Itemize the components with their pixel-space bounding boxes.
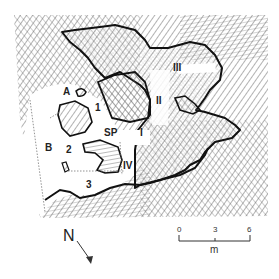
label-II: II	[156, 96, 162, 106]
north-label: N	[63, 228, 75, 244]
label-I: I	[140, 128, 143, 138]
scale-unit: m	[210, 244, 218, 255]
label-B: B	[45, 143, 52, 153]
label-3: 3	[86, 180, 92, 190]
scale-tick-0: 0	[177, 225, 181, 234]
passage-I	[120, 130, 150, 145]
scale-bar	[179, 235, 250, 241]
cave-plan-map	[0, 0, 279, 279]
north-arrow-head	[86, 256, 93, 264]
label-IV: IV	[123, 161, 132, 171]
scale-tick-3: 3	[213, 225, 217, 234]
label-1: 1	[95, 103, 101, 113]
label-III: III	[173, 63, 181, 73]
label-SP: SP	[104, 128, 117, 138]
label-A: A	[63, 87, 70, 97]
label-2: 2	[66, 145, 72, 155]
scale-tick-6: 6	[247, 225, 251, 234]
rock-pillar-A	[76, 89, 86, 96]
